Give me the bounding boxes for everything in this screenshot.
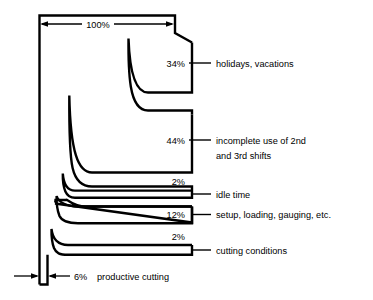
segment-label-idle-time: idle time: [216, 190, 250, 200]
segment-label-setup-loading: setup, loading, gauging, etc.: [216, 210, 331, 220]
percent-label-holidays: 34%: [167, 59, 185, 69]
percent-label-idle-time: 2%: [172, 177, 185, 187]
percent-label-setup-loading: 12%: [167, 210, 185, 220]
dimension-100-percent: 100%: [40, 20, 174, 30]
callout-cutting-conditions: 2% cutting conditions: [172, 232, 288, 256]
segment-label-productive-cutting: productive cutting: [97, 272, 169, 282]
segment-label-holidays: holidays, vacations: [216, 59, 294, 69]
percent-label-incomplete-shifts: 44%: [167, 136, 185, 146]
arrowhead-right-icon: [166, 21, 174, 27]
diagram-canvas: 100% 34% holidays, vacations 44% incompl…: [0, 0, 373, 300]
dimension-label-100: 100%: [86, 20, 110, 30]
callout-productive-cutting: 6% productive cutting: [14, 272, 169, 282]
machine-tool-utilization-diagram: 100% 34% holidays, vacations 44% incompl…: [0, 0, 373, 300]
arrowhead-inward-left-icon: [31, 273, 39, 279]
callout-holidays: 34% holidays, vacations: [167, 59, 294, 69]
percent-label-productive-cutting: 6%: [74, 272, 87, 282]
callout-idle-time: 2% idle time: [172, 177, 251, 200]
arrowhead-inward-right-icon: [48, 273, 56, 279]
segment-shape-holidays: [128, 39, 192, 115]
arrowhead-left-icon: [40, 21, 48, 27]
percent-label-cutting-conditions: 2%: [172, 232, 185, 242]
segment-label-cutting-conditions: cutting conditions: [216, 246, 287, 256]
callout-incomplete-shifts: 44% incomplete use of 2nd and 3rd shifts: [167, 136, 306, 162]
segment-label-incomplete-shifts-line1: incomplete use of 2nd: [216, 136, 306, 146]
segment-label-incomplete-shifts-line2: and 3rd shifts: [216, 151, 272, 161]
